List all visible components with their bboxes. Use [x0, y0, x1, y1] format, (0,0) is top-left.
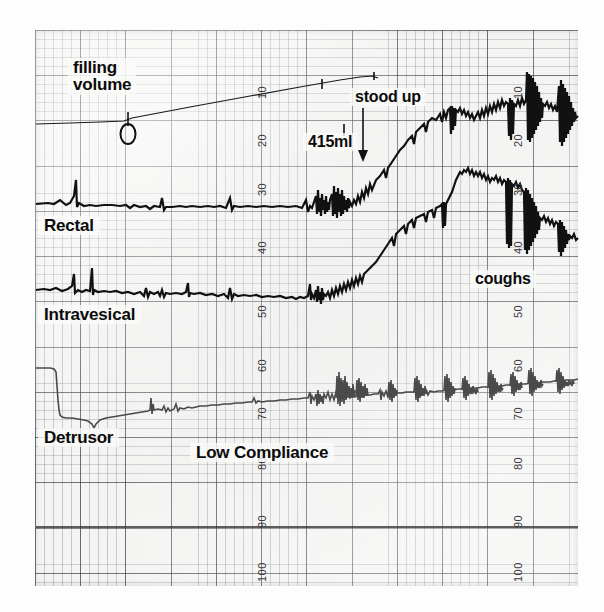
- coughs-label: coughs: [470, 270, 536, 288]
- axis-right-tick-80: 80: [512, 457, 524, 470]
- detrusor-artefact-7: [488, 370, 503, 400]
- axis-right-tick-100: 100: [512, 562, 524, 582]
- detrusor-artefact-5: [444, 374, 455, 402]
- volume-value-label: 415ml: [303, 133, 357, 151]
- detrusor-artefact-1: [336, 372, 355, 406]
- axis-center-tick-90: 90: [256, 515, 268, 528]
- axis-center-tick-30: 30: [256, 183, 268, 196]
- axis-right-tick-60: 60: [512, 359, 524, 372]
- axis-right-tick-30: 30: [512, 183, 524, 196]
- detrusor-label: Detrusor: [38, 428, 119, 447]
- axis-center-tick-40: 40: [256, 241, 268, 254]
- axis-center-tick-60: 60: [256, 359, 268, 372]
- axis-center-tick-50: 50: [256, 305, 268, 318]
- detrusor-artefact-3: [388, 380, 397, 402]
- axis-center-tick-10: 10: [256, 86, 268, 99]
- axis-center-tick-20: 20: [256, 134, 268, 147]
- stood-up-label: stood up: [350, 88, 426, 106]
- filling-volume-label-line2: volume: [73, 76, 131, 93]
- detrusor-artefact-4: [414, 376, 427, 402]
- axis-right-tick-20: 20: [512, 134, 524, 147]
- axis-right-tick-40: 40: [512, 241, 524, 254]
- stood-up-arrow: [358, 108, 368, 162]
- zero-marker-circle: [121, 124, 136, 144]
- axis-right-tick-90: 90: [512, 515, 524, 528]
- low-compliance-label: Low Compliance: [190, 443, 334, 462]
- intravesical-label: Intravesical: [38, 305, 141, 324]
- axis-center-tick-100: 100: [256, 562, 268, 582]
- detrusor-line: [36, 368, 578, 428]
- axis-center-tick-70: 70: [256, 407, 268, 420]
- axis-right-tick-10: 10: [512, 86, 524, 99]
- detrusor-artefact-9: [528, 368, 543, 396]
- axis-right-tick-70: 70: [512, 407, 524, 420]
- scanned-chart-page: 10 20 30 40 50 60 70 80 90 100 10 20 30 …: [0, 0, 604, 612]
- detrusor-artefact-8: [510, 372, 522, 396]
- filling-volume-label-line1: filling: [73, 59, 131, 76]
- detrusor-artefact-2: [356, 378, 368, 402]
- rectal-label: Rectal: [38, 216, 100, 235]
- filling-volume-label: filling volume: [68, 58, 136, 95]
- detrusor-trace: [36, 368, 578, 428]
- axis-right-tick-50: 50: [512, 305, 524, 318]
- detrusor-artefact-10: [556, 368, 574, 394]
